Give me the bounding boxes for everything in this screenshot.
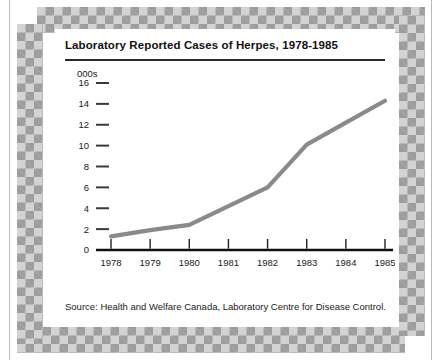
x-axis-tick-label: 1983 <box>296 257 317 268</box>
checker-band-left <box>17 24 43 344</box>
y-axis-tick-label: 14 <box>78 98 89 109</box>
page-title: Laboratory Reported Cases of Herpes, 197… <box>65 39 338 51</box>
y-axis-tick-label: 0 <box>84 244 89 255</box>
x-axis-tick-label: 1981 <box>218 257 239 268</box>
x-axis-tick-label: 1984 <box>335 257 356 268</box>
chart-plot-area: 000s 0246810121416 197819791980198119821… <box>55 65 395 287</box>
data-series-group <box>111 101 385 237</box>
page-gutter-rule-right <box>431 0 432 360</box>
y-axis-tick-label: 12 <box>78 119 89 130</box>
x-axis-tick-label: 1978 <box>100 257 121 268</box>
chart-card: Laboratory Reported Cases of Herpes, 197… <box>55 29 395 325</box>
line-chart-svg: 000s 0246810121416 197819791980198119821… <box>55 65 395 287</box>
x-axis-tick-label: 1985 <box>374 257 395 268</box>
page-canvas: Laboratory Reported Cases of Herpes, 197… <box>0 0 441 360</box>
y-axis-ticks-group: 0246810121416 <box>78 77 109 255</box>
checker-band-bottom <box>17 327 405 353</box>
series-line-herpes-cases <box>111 101 385 237</box>
y-axis-tick-label: 16 <box>78 77 89 88</box>
y-axis-tick-label: 2 <box>84 224 89 235</box>
y-axis-tick-label: 8 <box>84 161 89 172</box>
x-axis-tick-label: 1979 <box>140 257 161 268</box>
source-note: Source: Health and Welfare Canada, Labor… <box>65 301 386 312</box>
x-axis-tick-label: 1982 <box>257 257 278 268</box>
page-gutter-rule-left <box>9 0 10 360</box>
x-axis-ticks-group: 19781979198019811982198319841985 <box>100 239 395 268</box>
checker-band-right <box>399 16 425 336</box>
y-axis-tick-label: 4 <box>84 203 89 214</box>
x-axis-tick-label: 1980 <box>179 257 200 268</box>
y-axis-tick-label: 10 <box>78 140 89 151</box>
y-axis-tick-label: 6 <box>84 182 89 193</box>
title-divider <box>65 59 385 61</box>
